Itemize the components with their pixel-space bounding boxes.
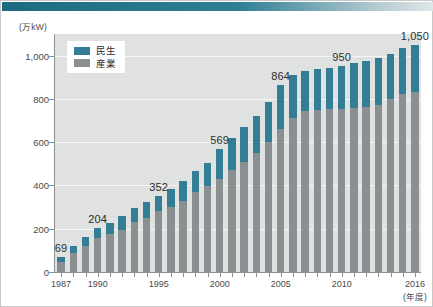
bar-segment-minsei — [82, 237, 90, 246]
bar-segment-minsei — [314, 69, 322, 110]
bar-segment-sangyo — [216, 179, 224, 272]
bar — [216, 149, 224, 272]
x-axis-tick-mark — [415, 273, 416, 277]
x-axis-tick-mark — [244, 273, 245, 277]
x-axis-tick-mark — [61, 273, 62, 277]
bar-segment-minsei — [375, 58, 383, 105]
data-value-label: 352 — [149, 181, 168, 193]
bar — [289, 75, 297, 272]
bar-segment-sangyo — [387, 99, 395, 272]
bar-segment-minsei — [216, 149, 224, 179]
bar-segment-minsei — [94, 228, 102, 238]
y-axis-tick-mark — [49, 99, 55, 100]
legend-item-sangyo: 産業 — [74, 59, 116, 69]
bar-segment-sangyo — [240, 162, 248, 272]
bar-segment-minsei — [399, 48, 407, 94]
x-axis-tick-mark — [293, 273, 294, 277]
x-axis-tick-label: 2000 — [210, 279, 230, 289]
bar-segment-sangyo — [167, 207, 175, 272]
x-axis-tick-mark — [391, 273, 392, 277]
bar-segment-minsei — [265, 102, 273, 142]
data-value-label: 69 — [55, 242, 68, 254]
bar-segment-sangyo — [314, 110, 322, 272]
y-axis-tick-mark — [49, 229, 55, 230]
legend-item-minsei: 民生 — [74, 46, 116, 56]
x-axis-tick-mark — [86, 273, 87, 277]
bar-segment-minsei — [179, 181, 187, 201]
bar-segment-minsei — [131, 208, 139, 222]
x-axis-tick-mark — [159, 273, 160, 277]
x-axis-tick-label: 2016 — [405, 279, 425, 289]
bar — [155, 196, 163, 272]
bar — [192, 171, 200, 272]
x-axis-tick-mark — [269, 273, 270, 277]
bar — [326, 68, 334, 272]
bar-segment-sangyo — [289, 118, 297, 272]
bar-segment-sangyo — [253, 153, 261, 272]
bar-segment-sangyo — [82, 246, 90, 272]
x-axis-tick-label: 2005 — [271, 279, 291, 289]
bar-segment-minsei — [143, 202, 151, 218]
accent-band — [2, 2, 433, 11]
bar — [399, 48, 407, 272]
bar-segment-sangyo — [192, 192, 200, 272]
bar-segment-sangyo — [265, 142, 273, 272]
x-axis-tick-mark — [256, 273, 257, 277]
bar-segment-minsei — [204, 163, 212, 186]
bar — [179, 181, 187, 272]
bar-segment-minsei — [240, 127, 248, 161]
x-axis-tick-mark — [330, 273, 331, 277]
x-axis-tick-mark — [342, 273, 343, 277]
data-value-label: 864 — [271, 70, 290, 82]
legend-label-minsei: 民生 — [96, 46, 116, 56]
bar-segment-minsei — [192, 171, 200, 193]
legend-swatch-minsei-icon — [74, 47, 90, 55]
x-axis-tick-mark — [220, 273, 221, 277]
bar-segment-minsei — [253, 116, 261, 153]
x-axis-tick-mark — [73, 273, 74, 277]
bar — [106, 223, 114, 272]
x-axis-tick-mark — [317, 273, 318, 277]
x-axis-tick-mark — [147, 273, 148, 277]
bar-segment-sangyo — [118, 230, 126, 272]
x-axis-tick-mark — [208, 273, 209, 277]
x-axis-tick-mark — [110, 273, 111, 277]
x-axis-tick-mark — [183, 273, 184, 277]
y-axis-tick-labels: 02004006008001,000 — [1, 1, 49, 307]
data-value-label: 204 — [88, 213, 107, 225]
bar-segment-sangyo — [228, 170, 236, 272]
bar-segment-minsei — [106, 223, 114, 234]
data-value-label: 950 — [332, 51, 351, 63]
y-axis-tick-label: 600 — [5, 137, 49, 148]
bar-segment-sangyo — [411, 92, 419, 272]
bar — [375, 58, 383, 272]
bar — [228, 138, 236, 272]
x-axis-tick-label: 2010 — [332, 279, 352, 289]
y-axis-tick-label: 0 — [5, 267, 49, 278]
y-axis-tick-mark — [49, 185, 55, 186]
x-axis-tick-label: 1987 — [51, 279, 71, 289]
bar — [82, 237, 90, 272]
bar-segment-sangyo — [326, 109, 334, 272]
x-axis-tick-mark — [281, 273, 282, 277]
bar — [204, 163, 212, 272]
x-axis-unit-label: (年度) — [403, 290, 427, 302]
bar-segment-minsei — [350, 63, 358, 107]
bar — [265, 102, 273, 272]
bar-segment-minsei — [167, 189, 175, 207]
legend-label-sangyo: 産業 — [96, 59, 116, 69]
x-axis-tick-mark — [403, 273, 404, 277]
bar-segment-sangyo — [143, 218, 151, 272]
y-axis-tick-label: 800 — [5, 93, 49, 104]
x-axis-tick-mark — [171, 273, 172, 277]
bar — [411, 45, 419, 272]
bar-segment-sangyo — [70, 253, 78, 272]
bar — [167, 189, 175, 272]
bar — [240, 127, 248, 272]
bar-segment-minsei — [301, 71, 309, 112]
bar-segment-sangyo — [94, 238, 102, 272]
bar-segment-minsei — [387, 54, 395, 99]
bar-segment-sangyo — [155, 211, 163, 272]
bar-segment-sangyo — [277, 129, 285, 272]
bar-segment-sangyo — [375, 105, 383, 272]
